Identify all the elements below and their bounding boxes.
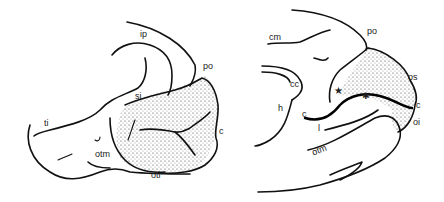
label-po-left: po [203, 62, 213, 71]
label-c-left: c [219, 127, 224, 136]
label-c-right: c [302, 110, 307, 119]
brain-sulci-figure: ip po si ti c otm oti cm po cc os h c c … [0, 0, 444, 202]
label-otm-left: otm [95, 150, 110, 159]
label-cm: cm [269, 33, 281, 42]
label-oti: oti [151, 171, 161, 180]
left-hemisphere-lateral [28, 22, 218, 179]
star-marker-icon: ★ [334, 86, 343, 96]
label-si: si [135, 92, 142, 101]
figure-drawing [0, 0, 444, 202]
label-cc: cc [290, 80, 299, 89]
label-os: os [408, 73, 418, 82]
label-h: h [278, 104, 283, 113]
label-po-right: po [367, 27, 377, 36]
label-ip: ip [140, 30, 147, 39]
label-ti: ti [44, 119, 49, 128]
label-c-right-end: c [416, 101, 421, 110]
label-oi: oi [413, 118, 420, 127]
label-l: l [318, 124, 320, 133]
asterisk-marker-icon: ✱ [362, 92, 370, 101]
